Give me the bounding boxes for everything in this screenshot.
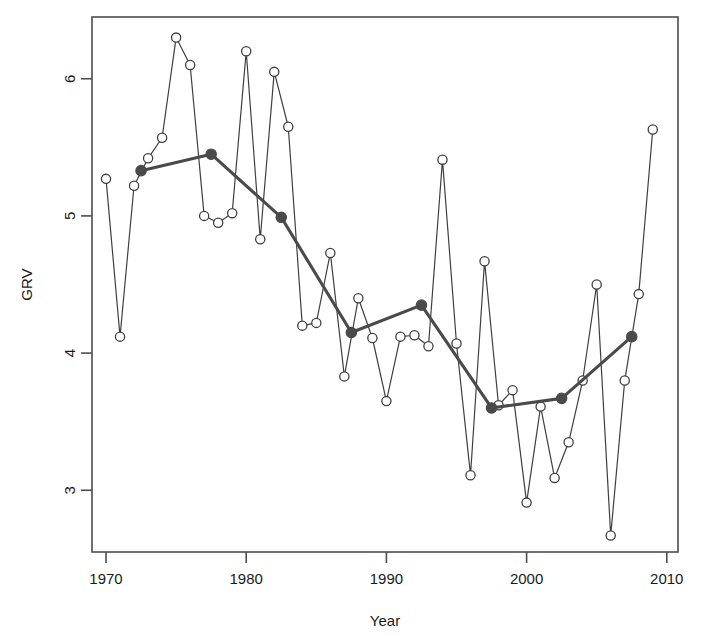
series-annual-grv: [101, 33, 657, 540]
data-point-annual: [298, 321, 307, 330]
x-tick-label: 1980: [230, 570, 263, 587]
data-point-annual: [508, 386, 517, 395]
series-line: [106, 38, 653, 536]
data-point-smoothed: [346, 327, 356, 337]
data-point-smoothed: [136, 165, 146, 175]
data-point-annual: [368, 333, 377, 342]
series-five-year-smoothed-mean: [136, 149, 637, 413]
chart-canvas: 197019801990200020103456YearGRV: [0, 0, 707, 640]
data-point-annual: [200, 211, 209, 220]
data-point-annual: [606, 531, 615, 540]
data-point-annual: [452, 339, 461, 348]
data-point-annual: [522, 498, 531, 507]
data-point-annual: [284, 122, 293, 131]
y-tick-label: 3: [62, 486, 79, 494]
data-point-annual: [326, 248, 335, 257]
x-tick-label: 2000: [510, 570, 543, 587]
data-point-annual: [480, 257, 489, 266]
data-point-annual: [396, 332, 405, 341]
series-line: [141, 154, 632, 408]
data-point-annual: [648, 125, 657, 134]
data-point-annual: [550, 473, 559, 482]
data-point-annual: [129, 181, 138, 190]
data-point-annual: [172, 33, 181, 42]
grv-year-chart: 197019801990200020103456YearGRV: [0, 0, 707, 640]
data-point-annual: [410, 331, 419, 340]
y-tick-label: 5: [62, 212, 79, 220]
y-tick-label: 6: [62, 75, 79, 83]
data-point-smoothed: [276, 212, 286, 222]
x-tick-label: 1990: [370, 570, 403, 587]
data-point-annual: [256, 235, 265, 244]
x-tick-label: 1970: [89, 570, 122, 587]
data-point-annual: [115, 332, 124, 341]
x-axis-title: Year: [370, 612, 400, 629]
plot-frame: [92, 17, 678, 552]
data-point-annual: [340, 372, 349, 381]
x-axis: 19701980199020002010: [89, 552, 683, 587]
data-point-annual: [143, 154, 152, 163]
data-point-annual: [312, 318, 321, 327]
data-point-smoothed: [556, 393, 566, 403]
data-point-smoothed: [416, 300, 426, 310]
data-point-annual: [158, 133, 167, 142]
data-point-annual: [592, 280, 601, 289]
data-point-annual: [382, 397, 391, 406]
data-point-smoothed: [206, 149, 216, 159]
data-point-annual: [270, 67, 279, 76]
y-axis-title: GRV: [18, 268, 35, 300]
data-point-annual: [228, 209, 237, 218]
data-point-smoothed: [486, 403, 496, 413]
data-point-annual: [242, 47, 251, 56]
data-point-annual: [354, 294, 363, 303]
data-point-annual: [466, 471, 475, 480]
data-point-annual: [214, 218, 223, 227]
data-point-annual: [536, 402, 545, 411]
data-point-annual: [438, 155, 447, 164]
data-point-annual: [424, 342, 433, 351]
data-point-smoothed: [627, 331, 637, 341]
x-tick-label: 2010: [650, 570, 683, 587]
y-axis: 3456: [62, 75, 93, 495]
data-point-annual: [620, 376, 629, 385]
data-point-annual: [564, 438, 573, 447]
data-point-annual: [101, 174, 110, 183]
data-point-annual: [186, 60, 195, 69]
data-point-annual: [634, 290, 643, 299]
y-tick-label: 4: [62, 349, 79, 357]
